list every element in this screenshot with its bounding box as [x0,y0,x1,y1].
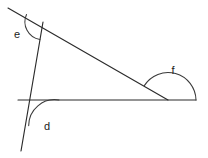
angle-arc-f [144,73,196,100]
geometry-figure: e d f [0,0,208,158]
geometry-canvas: e d f [0,0,208,158]
angle-label-d: d [44,120,50,132]
steep-line [21,22,43,151]
angle-label-f: f [171,64,175,76]
angle-arc-e [25,15,40,40]
angle-label-e: e [14,28,20,40]
